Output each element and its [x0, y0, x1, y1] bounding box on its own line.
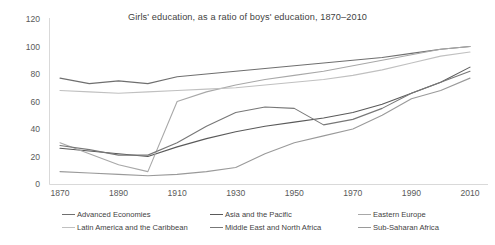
legend-item-label: Eastern Europe: [373, 211, 426, 219]
x-axis-tick-label: 1870: [40, 188, 80, 198]
x-axis-tick-label: 1930: [216, 188, 256, 198]
series-line: [60, 52, 470, 93]
y-axis-tick-label: 20: [14, 152, 40, 162]
legend-swatch-line-icon: [62, 214, 75, 215]
legend-item[interactable]: Middle East and North Africa: [210, 224, 358, 232]
chart-legend: Advanced EconomiesAsia and the PacificEa…: [62, 208, 482, 234]
x-axis-tick-label: 1950: [274, 188, 314, 198]
y-axis-tick-label: 100: [14, 42, 40, 52]
legend-swatch-line-icon: [62, 227, 75, 228]
series-line: [60, 67, 470, 156]
legend-item-label: Asia and the Pacific: [225, 211, 292, 219]
y-axis-tick-label: 60: [14, 97, 40, 107]
x-axis-tick-label: 1990: [391, 188, 431, 198]
series-lines: [60, 47, 470, 176]
y-axis-tick-label: 120: [14, 14, 40, 24]
legend-swatch-line-icon: [358, 227, 371, 228]
legend-swatch-line-icon: [358, 214, 371, 215]
x-axis-tick-label: 1890: [99, 188, 139, 198]
x-axis-tick-label: 2010: [450, 188, 490, 198]
legend-item[interactable]: Latin America and the Caribbean: [62, 224, 210, 232]
series-line: [60, 47, 470, 172]
x-axis-tick-label: 1910: [157, 188, 197, 198]
legend-item-label: Sub-Saharan Africa: [373, 224, 439, 232]
y-axis-tick-label: 80: [14, 69, 40, 79]
y-axis-tick-label: 40: [14, 124, 40, 134]
series-line: [60, 71, 470, 155]
axis-lines: [50, 18, 489, 185]
chart-container: Girls' education, as a ratio of boys' ed…: [0, 0, 495, 245]
legend-swatch-line-icon: [210, 214, 223, 215]
legend-item-label: Middle East and North Africa: [225, 224, 321, 232]
y-axis-tick-label: 0: [14, 179, 40, 189]
legend-item[interactable]: Sub-Saharan Africa: [358, 224, 482, 232]
legend-item[interactable]: Eastern Europe: [358, 211, 482, 219]
legend-item[interactable]: Asia and the Pacific: [210, 211, 358, 219]
legend-item-label: Advanced Economies: [77, 211, 150, 219]
legend-swatch-line-icon: [210, 227, 223, 228]
legend-item[interactable]: Advanced Economies: [62, 211, 210, 219]
series-line: [60, 47, 470, 84]
legend-item-label: Latin America and the Caribbean: [77, 224, 188, 232]
x-axis-tick-label: 1970: [333, 188, 373, 198]
